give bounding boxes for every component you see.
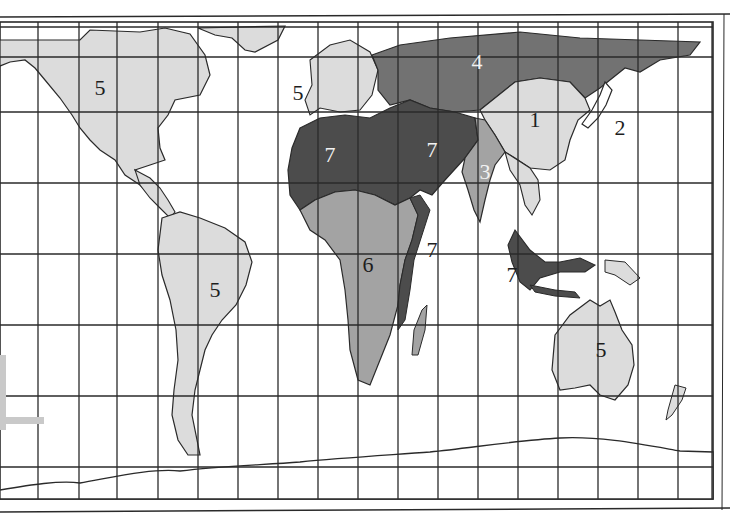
region-north-america (0, 28, 210, 200)
region-greenland (198, 26, 285, 52)
world-map (0, 0, 732, 530)
region-indonesia-islands (530, 285, 580, 298)
region-madagascar (412, 305, 427, 355)
region-central-america (135, 170, 175, 218)
antarctica (0, 438, 713, 499)
region-indonesia (508, 230, 595, 290)
region-europe (305, 40, 378, 115)
region-australia (552, 300, 634, 400)
region-new-guinea (605, 260, 640, 285)
region-new-zealand (666, 385, 686, 420)
left-edge-bar (0, 417, 44, 424)
region-north-africa-middle-east (288, 100, 478, 210)
